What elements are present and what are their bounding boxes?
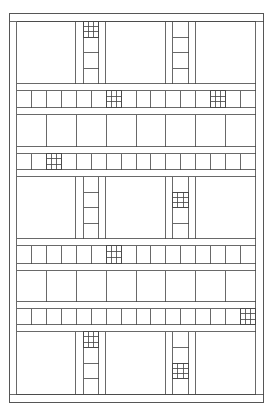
ladder-left	[76, 177, 106, 239]
ladder-right	[166, 332, 196, 395]
ladder-left	[76, 22, 106, 84]
grid-cell-border	[106, 91, 121, 108]
strip-small-grid	[106, 91, 121, 108]
ladder-right	[166, 177, 196, 239]
ladder-small-grid	[84, 332, 99, 348]
outer-border	[10, 14, 264, 403]
grid-cell-border	[241, 309, 256, 325]
strip-small-grid	[241, 309, 256, 325]
section-1	[17, 22, 256, 84]
outer-frame	[10, 14, 264, 403]
strip-1	[17, 91, 256, 108]
strip-small-grid	[106, 246, 121, 264]
grid-cell-border	[173, 363, 189, 379]
grid-cell-border	[106, 246, 121, 264]
grid-pattern-diagram	[0, 0, 272, 412]
ladder-small-grid	[173, 192, 189, 208]
ladder-right	[166, 22, 196, 84]
strip-small-grid	[211, 91, 226, 108]
section-3	[17, 332, 256, 395]
grid-cell-border	[46, 154, 61, 170]
ladder-left	[76, 332, 106, 395]
section-2	[17, 177, 256, 239]
grid-cell-border	[173, 192, 189, 208]
grid-cell-border	[84, 22, 99, 38]
grid-cell-border	[211, 91, 226, 108]
strip-4	[17, 309, 256, 325]
block-row-2	[17, 271, 256, 302]
strip-3	[17, 246, 256, 264]
grid-cell-border	[84, 332, 99, 348]
strip-2	[17, 154, 256, 170]
ladder-small-grid	[173, 363, 189, 379]
block-row-1	[17, 115, 256, 147]
strip-small-grid	[46, 154, 61, 170]
ladder-small-grid	[84, 22, 99, 38]
